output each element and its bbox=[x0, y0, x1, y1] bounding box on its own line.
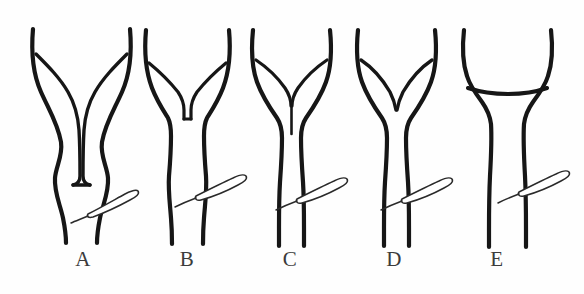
panel-c-label: C bbox=[283, 247, 298, 271]
panel-b-label: B bbox=[180, 247, 195, 271]
uterine-anomaly-figure: A B C bbox=[0, 0, 584, 294]
panel-e-label: E bbox=[490, 247, 503, 271]
panel-a-label: A bbox=[75, 247, 91, 271]
figure-canvas: A B C bbox=[0, 0, 584, 294]
panel-d-label: D bbox=[386, 247, 402, 271]
